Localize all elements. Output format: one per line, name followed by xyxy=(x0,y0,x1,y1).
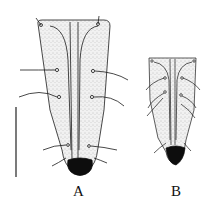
panel-label-a: A xyxy=(73,184,84,199)
structure-b xyxy=(146,58,200,165)
figure-canvas: A B xyxy=(0,0,212,212)
structure-a xyxy=(19,16,128,176)
illustration xyxy=(0,0,212,212)
panel-label-b: B xyxy=(171,184,181,199)
